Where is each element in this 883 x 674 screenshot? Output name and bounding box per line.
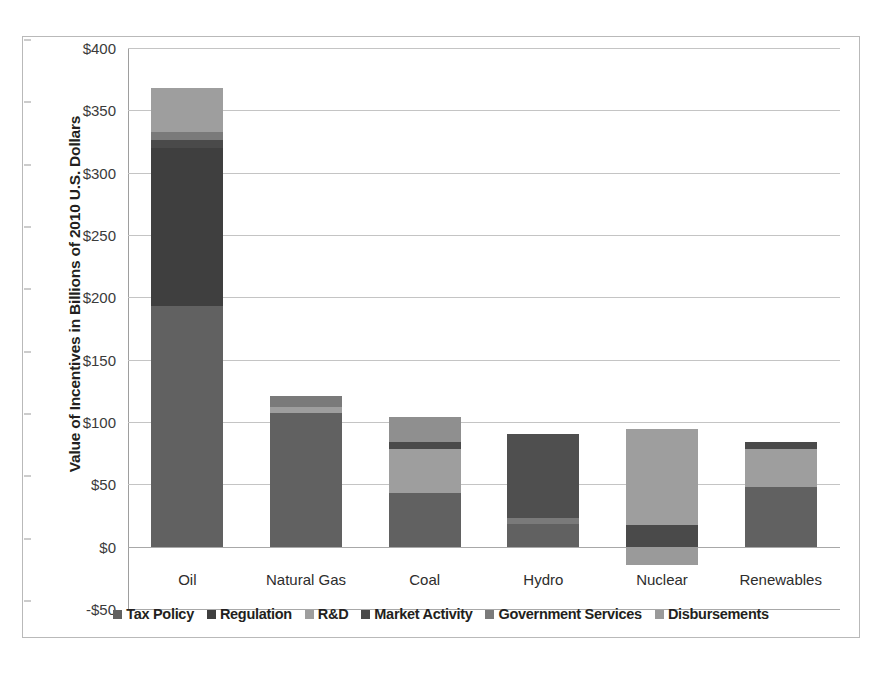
bar-segment[interactable] xyxy=(507,434,579,518)
bar-group[interactable] xyxy=(626,48,698,609)
y-tick-label: $50 xyxy=(31,476,127,493)
y-tick-label: $200 xyxy=(31,289,127,306)
y-tick-label: $100 xyxy=(31,414,127,431)
gridline xyxy=(128,547,840,548)
legend-label: Regulation xyxy=(220,606,292,622)
legend-item[interactable]: R&D xyxy=(305,606,349,622)
bar-segment[interactable] xyxy=(626,547,698,566)
legend-label: R&D xyxy=(318,606,349,622)
legend-item[interactable]: Regulation xyxy=(207,606,292,622)
gridline xyxy=(128,110,840,111)
bar-group[interactable] xyxy=(270,48,342,609)
bar-group[interactable] xyxy=(389,48,461,609)
y-tick-label: $150 xyxy=(31,351,127,368)
bar-segment[interactable] xyxy=(151,140,223,147)
gridline xyxy=(128,173,840,174)
bar-segment[interactable] xyxy=(270,407,342,413)
bar-group[interactable] xyxy=(507,48,579,609)
legend-item[interactable]: Market Activity xyxy=(361,606,472,622)
bar-segment[interactable] xyxy=(626,429,698,525)
legend-swatch-icon xyxy=(361,610,370,619)
gridline xyxy=(128,422,840,423)
y-tick-label: $400 xyxy=(31,40,127,57)
legend-label: Disbursements xyxy=(668,606,769,622)
bar-segment[interactable] xyxy=(270,396,342,407)
gridline xyxy=(128,484,840,485)
legend-swatch-icon xyxy=(485,610,494,619)
bar-segment[interactable] xyxy=(151,132,223,141)
tick-mark xyxy=(24,227,31,228)
y-tick-label: $350 xyxy=(31,102,127,119)
bar-segment[interactable] xyxy=(270,413,342,546)
bar-segment[interactable] xyxy=(389,417,461,442)
bar-group[interactable] xyxy=(151,48,223,609)
gridline xyxy=(128,235,840,236)
tick-mark xyxy=(24,538,31,539)
gridline xyxy=(128,48,840,49)
bar-segment[interactable] xyxy=(626,525,698,546)
bar-segment[interactable] xyxy=(745,487,817,547)
tick-mark xyxy=(24,40,31,41)
plot-area: $400$350$300$250$200$150$100$50$0-$50 Oi… xyxy=(128,48,840,609)
bar-segment[interactable] xyxy=(151,88,223,132)
chart-figure: Value of Incentives in Billions of 2010 … xyxy=(22,36,860,638)
legend-swatch-icon xyxy=(207,610,216,619)
legend-label: Government Services xyxy=(498,606,641,622)
tick-mark xyxy=(24,414,31,415)
legend-swatch-icon xyxy=(305,610,314,619)
bar-segment[interactable] xyxy=(389,449,461,493)
tick-mark xyxy=(24,102,31,103)
y-tick-label: $0 xyxy=(31,538,127,555)
legend-item[interactable]: Government Services xyxy=(485,606,641,622)
tick-mark xyxy=(24,351,31,352)
bar-segment[interactable] xyxy=(745,449,817,486)
bar-segment[interactable] xyxy=(745,442,817,449)
gridline xyxy=(128,360,840,361)
tick-mark xyxy=(24,601,31,602)
legend-item[interactable]: Disbursements xyxy=(655,606,769,622)
y-tick-label: $250 xyxy=(31,227,127,244)
tick-mark xyxy=(24,164,31,165)
legend-label: Tax Policy xyxy=(126,606,194,622)
chart-legend: Tax PolicyRegulationR&DMarket ActivityGo… xyxy=(23,606,859,622)
bar-segment[interactable] xyxy=(507,518,579,524)
bar-segment[interactable] xyxy=(151,306,223,547)
legend-swatch-icon xyxy=(113,610,122,619)
y-tick-label: $300 xyxy=(31,164,127,181)
legend-label: Market Activity xyxy=(374,606,472,622)
bar-segment[interactable] xyxy=(389,493,461,547)
tick-mark xyxy=(24,289,31,290)
x-axis-label-renewables: Renewables xyxy=(691,571,871,588)
bar-segment[interactable] xyxy=(507,524,579,546)
bar-segment[interactable] xyxy=(151,148,223,306)
legend-item[interactable]: Tax Policy xyxy=(113,606,194,622)
y-axis-line xyxy=(128,48,129,609)
bar-segment[interactable] xyxy=(389,442,461,449)
gridline xyxy=(128,297,840,298)
bar-group[interactable] xyxy=(745,48,817,609)
legend-swatch-icon xyxy=(655,610,664,619)
tick-mark xyxy=(24,476,31,477)
